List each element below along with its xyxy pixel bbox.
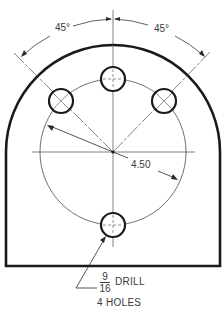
- center-point: [111, 150, 114, 153]
- arrowhead-icon: [47, 125, 54, 131]
- radius-leader-upper: [50, 126, 113, 152]
- hole-bottom: [101, 213, 125, 237]
- hole-right: [152, 89, 176, 113]
- radius-label: 4.50: [131, 159, 151, 170]
- arrowhead-icon: [199, 50, 205, 57]
- fraction-denominator: 16: [99, 283, 110, 294]
- angle-label-left: 45°: [55, 22, 70, 33]
- drill-size-fraction: 9 16: [99, 271, 111, 294]
- hole-left: [49, 89, 73, 113]
- drill-label: DRILL: [115, 276, 145, 287]
- angle-dimension-arc-left-2: [73, 19, 111, 26]
- arrowhead-icon: [171, 174, 178, 180]
- hole-count-label: 4 HOLES: [97, 297, 141, 308]
- angle-dimension-arc-left: [23, 36, 50, 55]
- fraction-numerator: 9: [102, 271, 108, 282]
- arrowhead-icon: [106, 17, 112, 21]
- arrowhead-icon: [21, 50, 27, 57]
- radius-leader-lower: [113, 152, 128, 158]
- arrowhead-icon: [114, 17, 120, 21]
- arrowhead-icon: [100, 236, 106, 243]
- engineering-drawing: 45° 45° 4.50: [0, 0, 222, 323]
- angle-dimension-arc-right-2: [175, 36, 203, 55]
- angle-label-right: 45°: [154, 23, 169, 34]
